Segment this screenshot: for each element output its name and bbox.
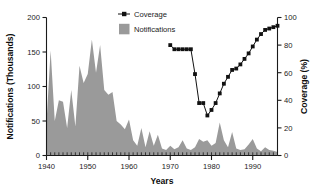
coverage-data-point (197, 101, 201, 105)
coverage-data-point (185, 47, 189, 51)
x-axis-tick-label: 1980 (203, 162, 220, 171)
left-axis-tick-label: 50 (32, 117, 40, 126)
coverage-data-point (276, 24, 280, 28)
coverage-data-point (172, 47, 176, 51)
coverage-data-point (267, 27, 271, 31)
coverage-data-point (251, 45, 255, 49)
legend-coverage-marker (122, 12, 126, 16)
coverage-data-point (238, 63, 242, 67)
left-axis-tick-label: 100 (27, 82, 40, 91)
coverage-data-point (218, 92, 222, 96)
coverage-data-point (271, 25, 275, 29)
dual-axis-chart: 0501001502000204060801001940195019601970… (0, 0, 316, 192)
coverage-data-point (181, 47, 185, 51)
right-axis-tick-label: 80 (284, 41, 292, 50)
legend-label-coverage: Coverage (134, 10, 167, 19)
right-axis-tick-label: 0 (284, 151, 288, 160)
x-axis-tick-label: 1960 (121, 162, 138, 171)
coverage-data-point (234, 67, 238, 71)
coverage-data-point (222, 82, 226, 86)
coverage-data-point (168, 43, 172, 47)
x-axis-tick-label: 1970 (162, 162, 179, 171)
right-axis-tick-label: 60 (284, 69, 292, 78)
coverage-data-point (255, 38, 259, 42)
coverage-data-point (193, 72, 197, 76)
legend-label-notifications: Notifications (134, 25, 176, 34)
coverage-data-point (205, 114, 209, 118)
left-axis-tick-label: 150 (27, 48, 40, 57)
right-axis-tick-label: 40 (284, 96, 292, 105)
right-axis-title: Coverage (%) (299, 59, 309, 114)
coverage-data-point (226, 75, 230, 79)
left-axis-tick-label: 0 (36, 151, 40, 160)
coverage-data-point (201, 101, 205, 105)
coverage-data-point (210, 108, 214, 112)
x-axis-title: Years (151, 176, 174, 186)
coverage-data-point (259, 32, 263, 36)
x-axis-tick-label: 1950 (79, 162, 96, 171)
chart-container: 0501001502000204060801001940195019601970… (0, 0, 316, 192)
x-axis-tick-label: 1990 (244, 162, 261, 171)
right-axis-tick-label: 100 (284, 13, 297, 22)
left-axis-title: Notifications (Thousands) (5, 33, 15, 139)
legend-notifications-swatch (119, 24, 130, 35)
coverage-data-point (263, 28, 267, 32)
coverage-data-point (243, 57, 247, 61)
coverage-data-point (189, 47, 193, 51)
coverage-data-point (247, 51, 251, 55)
coverage-data-point (214, 101, 218, 105)
coverage-data-point (230, 68, 234, 72)
left-axis-tick-label: 200 (27, 13, 40, 22)
right-axis-tick-label: 20 (284, 124, 292, 133)
x-axis-tick-label: 1940 (38, 162, 55, 171)
coverage-data-point (177, 47, 181, 51)
